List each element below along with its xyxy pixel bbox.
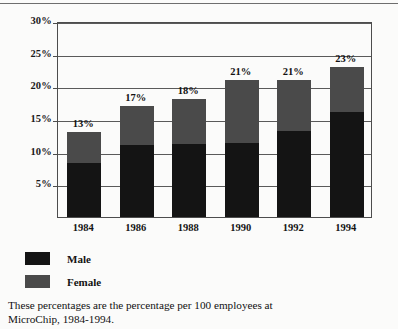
legend-label-male: Male xyxy=(67,253,91,265)
bar-segment-male-1986 xyxy=(120,145,154,217)
bar-segment-male-1984 xyxy=(67,163,101,217)
bar-segment-male-1994 xyxy=(330,112,364,217)
x-axis-tick-label-1994: 1994 xyxy=(316,222,376,233)
y-axis-tick-label: 15% xyxy=(6,113,52,124)
bar-segment-female-1984 xyxy=(67,132,101,163)
bar-total-label-1984: 13% xyxy=(61,118,105,129)
x-axis-tick-label-1984: 1984 xyxy=(53,222,113,233)
caption-line-1: These percentages are the percentage per… xyxy=(8,299,388,313)
x-axis-tick-label-1988: 1988 xyxy=(158,222,218,233)
legend-item-male: Male xyxy=(25,250,101,267)
gridline-10% xyxy=(58,154,371,155)
y-axis-labels: 5%10%15%20%25%30% xyxy=(0,0,52,240)
y-axis-tick-label: 5% xyxy=(6,178,52,189)
bar-segment-female-1988 xyxy=(172,99,206,143)
bar-total-label-1992: 21% xyxy=(271,66,315,77)
bar-segment-female-1992 xyxy=(277,80,311,131)
bar-1992 xyxy=(277,80,311,217)
x-axis-tick-label-1986: 1986 xyxy=(106,222,166,233)
bar-segment-male-1988 xyxy=(172,144,206,217)
bar-segment-female-1986 xyxy=(120,106,154,145)
bar-total-label-1990: 21% xyxy=(219,66,263,77)
bar-segment-female-1994 xyxy=(330,67,364,113)
figure-caption: These percentages are the percentage per… xyxy=(8,299,388,326)
bar-1990 xyxy=(225,80,259,217)
bar-total-label-1986: 17% xyxy=(114,92,158,103)
gridline-20% xyxy=(58,88,371,89)
bar-total-label-1994: 23% xyxy=(324,53,368,64)
bar-1984 xyxy=(67,132,101,217)
y-axis-tick-label: 25% xyxy=(6,48,52,59)
caption-line-2: MicroChip, 1984-1994. xyxy=(8,313,388,327)
chart-legend: MaleFemale xyxy=(25,250,101,296)
bar-segment-male-1992 xyxy=(277,131,311,217)
y-tick-mark xyxy=(53,56,58,57)
y-tick-mark xyxy=(53,186,58,187)
legend-item-female: Female xyxy=(25,273,101,290)
bar-segment-female-1990 xyxy=(225,80,259,143)
figure-page: 5%10%15%20%25%30% 13%198417%198618%19882… xyxy=(0,0,398,329)
y-tick-mark xyxy=(53,154,58,155)
x-axis-tick-label-1992: 1992 xyxy=(263,222,323,233)
y-axis-tick-label: 30% xyxy=(6,15,52,26)
stacked-bar-chart: 5%10%15%20%25%30% 13%198417%198618%19882… xyxy=(0,0,398,240)
bar-1988 xyxy=(172,99,206,217)
y-axis-tick-label: 10% xyxy=(6,146,52,157)
y-tick-mark xyxy=(53,23,58,24)
gridline-30% xyxy=(58,23,371,24)
y-axis-tick-label: 20% xyxy=(6,80,52,91)
legend-label-female: Female xyxy=(67,276,101,288)
bar-segment-male-1990 xyxy=(225,143,259,217)
gridline-5% xyxy=(58,186,371,187)
bar-1986 xyxy=(120,106,154,217)
bar-1994 xyxy=(330,67,364,217)
legend-swatch-male xyxy=(25,252,50,265)
y-tick-mark xyxy=(53,88,58,89)
x-axis-tick-label-1990: 1990 xyxy=(211,222,271,233)
bar-total-label-1988: 18% xyxy=(166,85,210,96)
y-tick-mark xyxy=(53,121,58,122)
legend-swatch-female xyxy=(25,275,50,288)
